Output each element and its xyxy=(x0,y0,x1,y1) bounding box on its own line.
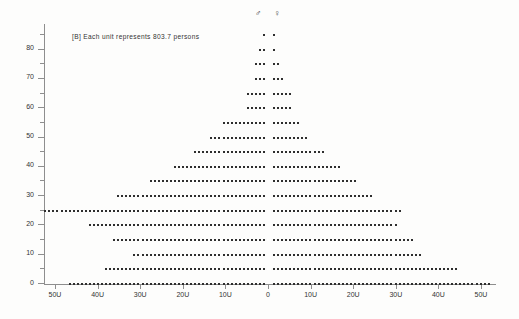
pyramid-dot xyxy=(251,224,253,226)
pyramid-plot-area xyxy=(0,0,519,319)
pyramid-dot xyxy=(435,268,437,270)
pyramid-dot xyxy=(182,239,184,241)
pyramid-dot xyxy=(293,137,295,139)
pyramid-dot xyxy=(350,239,352,241)
pyramid-dot xyxy=(198,151,200,153)
pyramid-dot xyxy=(243,268,245,270)
pyramid-dot xyxy=(407,254,409,256)
pyramid-dot xyxy=(239,195,241,197)
pyramid-dot xyxy=(281,239,283,241)
pyramid-dot xyxy=(214,224,216,226)
x-tick xyxy=(268,284,269,289)
pyramid-dot xyxy=(386,254,388,256)
pyramid-dot xyxy=(297,151,299,153)
pyramid-dot xyxy=(150,180,152,182)
pyramid-dot xyxy=(239,180,241,182)
pyramid-dot xyxy=(243,137,245,139)
y-tick-major xyxy=(38,254,44,255)
pyramid-dot xyxy=(301,254,303,256)
pyramid-dot xyxy=(158,180,160,182)
pyramid-dot xyxy=(227,180,229,182)
pyramid-dot xyxy=(301,210,303,212)
pyramid-dot xyxy=(415,254,417,256)
pyramid-dot xyxy=(305,210,307,212)
pyramid-dot xyxy=(198,254,200,256)
pyramid-dot xyxy=(301,268,303,270)
pyramid-dot xyxy=(129,239,131,241)
pyramid-dot xyxy=(223,151,225,153)
pyramid-dot xyxy=(305,224,307,226)
x-tick-label: 20U xyxy=(168,291,198,298)
pyramid-dot xyxy=(255,78,257,80)
pyramid-dot xyxy=(447,268,449,270)
pyramid-dot xyxy=(243,180,245,182)
pyramid-dot xyxy=(48,210,50,212)
pyramid-dot xyxy=(113,268,115,270)
pyramid-dot xyxy=(338,210,340,212)
pyramid-dot xyxy=(251,93,253,95)
pyramid-dot xyxy=(174,239,176,241)
y-tick-minor xyxy=(40,93,44,94)
pyramid-dot xyxy=(113,210,115,212)
pyramid-dot xyxy=(251,107,253,109)
pyramid-dot xyxy=(198,268,200,270)
pyramid-dot xyxy=(142,239,144,241)
pyramid-dot xyxy=(178,166,180,168)
x-tick xyxy=(311,284,312,289)
pyramid-dot xyxy=(109,210,111,212)
pyramid-dot xyxy=(206,210,208,212)
pyramid-dot xyxy=(358,239,360,241)
pyramid-dot xyxy=(301,137,303,139)
pyramid-dot xyxy=(251,268,253,270)
pyramid-dot xyxy=(202,180,204,182)
x-tick-label: 40U xyxy=(423,291,453,298)
pyramid-dot xyxy=(301,239,303,241)
pyramid-dot xyxy=(281,78,283,80)
pyramid-dot xyxy=(255,210,257,212)
pyramid-dot xyxy=(293,180,295,182)
pyramid-dot xyxy=(289,137,291,139)
pyramid-dot xyxy=(117,239,119,241)
pyramid-dot xyxy=(277,93,279,95)
pyramid-dot xyxy=(342,210,344,212)
y-tick-label: 50 xyxy=(16,132,34,139)
pyramid-dot xyxy=(170,210,172,212)
pyramid-dot xyxy=(218,210,220,212)
y-axis-line xyxy=(44,24,45,284)
y-tick-major xyxy=(38,137,44,138)
pyramid-dot xyxy=(182,195,184,197)
pyramid-dot xyxy=(305,268,307,270)
pyramid-dot xyxy=(235,122,237,124)
pyramid-dot xyxy=(277,151,279,153)
pyramid-dot xyxy=(259,137,261,139)
pyramid-dot xyxy=(318,268,320,270)
pyramid-dot xyxy=(190,195,192,197)
pyramid-dot xyxy=(281,254,283,256)
pyramid-dot xyxy=(186,195,188,197)
pyramid-dot xyxy=(289,107,291,109)
pyramid-dot xyxy=(243,239,245,241)
pyramid-dot xyxy=(378,254,380,256)
pyramid-dot xyxy=(243,166,245,168)
pyramid-dot xyxy=(166,254,168,256)
pyramid-dot xyxy=(137,239,139,241)
pyramid-dot xyxy=(117,195,119,197)
pyramid-dot xyxy=(247,239,249,241)
pyramid-dot xyxy=(186,166,188,168)
pyramid-dot xyxy=(174,180,176,182)
pyramid-dot xyxy=(117,210,119,212)
pyramid-dot xyxy=(218,239,220,241)
pyramid-dot xyxy=(322,195,324,197)
pyramid-dot xyxy=(374,210,376,212)
pyramid-dot xyxy=(338,254,340,256)
pyramid-dot xyxy=(227,151,229,153)
pyramid-dot xyxy=(133,210,135,212)
pyramid-dot xyxy=(146,210,148,212)
pyramid-dot xyxy=(186,180,188,182)
pyramid-dot xyxy=(314,151,316,153)
pyramid-dot xyxy=(289,210,291,212)
pyramid-dot xyxy=(263,239,265,241)
pyramid-dot xyxy=(281,107,283,109)
pyramid-dot xyxy=(255,268,257,270)
pyramid-dot xyxy=(239,151,241,153)
